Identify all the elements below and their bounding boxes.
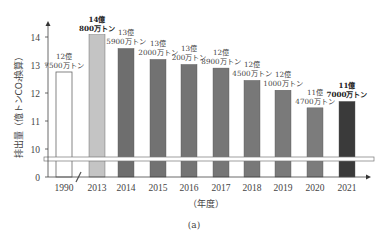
svg-text:11億: 11億 bbox=[338, 81, 356, 90]
x-tick-label: 2016 bbox=[180, 183, 199, 193]
y-tick-label: 12 bbox=[31, 89, 41, 99]
bar-2020 bbox=[307, 108, 323, 177]
x-tick-label: 1990 bbox=[55, 183, 74, 193]
svg-text:800万トン: 800万トン bbox=[79, 24, 115, 33]
svg-text:1000万トン: 1000万トン bbox=[263, 79, 302, 88]
bar-2021 bbox=[339, 101, 355, 177]
svg-text:12億: 12億 bbox=[275, 70, 291, 79]
y-tick-label: 13 bbox=[31, 61, 41, 71]
svg-text:7500万トン: 7500万トン bbox=[44, 61, 83, 70]
svg-text:12億: 12億 bbox=[244, 60, 260, 69]
axis-break-band bbox=[44, 157, 374, 161]
bar-2018 bbox=[244, 80, 260, 177]
y-tick-label: 0 bbox=[35, 173, 40, 183]
y-tick-label: 10 bbox=[31, 145, 41, 155]
value-label-2013: 14億800万トン bbox=[79, 15, 115, 33]
svg-text:13億: 13億 bbox=[150, 39, 166, 48]
x-tick-label: 2017 bbox=[212, 183, 231, 193]
y-tick-label: 14 bbox=[31, 33, 41, 43]
value-label-1990: 12億7500万トン bbox=[44, 52, 83, 70]
x-tick-label: 2013 bbox=[88, 183, 107, 193]
svg-text:13億: 13億 bbox=[181, 44, 197, 53]
svg-text:14億: 14億 bbox=[88, 15, 106, 24]
x-axis-arrow-icon bbox=[366, 175, 371, 180]
value-label-2017: 12億8900万トン bbox=[201, 48, 240, 66]
x-tick-label: 2020 bbox=[306, 183, 325, 193]
x-axis-label: （年度） bbox=[188, 198, 224, 209]
svg-text:7000万トン: 7000万トン bbox=[326, 90, 367, 99]
y-tick-label: 11 bbox=[31, 117, 40, 127]
bar-2013 bbox=[89, 35, 105, 177]
svg-text:5900万トン: 5900万トン bbox=[106, 37, 145, 46]
emissions-bar-chart: 0101112131419902013201420152016201720182… bbox=[0, 0, 383, 230]
x-tick-label: 2019 bbox=[274, 183, 293, 193]
svg-text:12億: 12億 bbox=[213, 48, 229, 57]
x-tick-label: 2018 bbox=[243, 183, 262, 193]
x-tick-label: 2014 bbox=[117, 183, 136, 193]
svg-text:8900万トン: 8900万トン bbox=[201, 57, 240, 66]
x-tick-label: 2015 bbox=[149, 183, 168, 193]
figure-caption: (a) bbox=[188, 220, 200, 230]
svg-text:4500万トン: 4500万トン bbox=[232, 69, 271, 78]
svg-text:11億: 11億 bbox=[307, 88, 323, 97]
svg-text:12億: 12億 bbox=[56, 52, 72, 61]
value-label-2021: 11億7000万トン bbox=[326, 81, 367, 99]
x-tick-label: 2021 bbox=[338, 183, 357, 193]
y-axis-label: 排出量（億トンCO₂換算） bbox=[13, 52, 24, 159]
y-axis-arrow-icon bbox=[46, 21, 51, 26]
bar-2019 bbox=[275, 90, 291, 177]
svg-text:13億: 13億 bbox=[118, 28, 134, 37]
